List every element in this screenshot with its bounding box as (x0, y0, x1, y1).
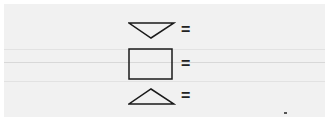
speck (284, 112, 287, 114)
equals-sign-1: = (181, 22, 190, 38)
inverted-triangle-icon (128, 22, 176, 40)
equals-sign-3: = (181, 88, 190, 104)
rectangle-icon (128, 48, 174, 81)
equals-sign-2: = (181, 56, 190, 72)
triangle-icon (128, 88, 176, 106)
scan-streak (4, 81, 325, 82)
